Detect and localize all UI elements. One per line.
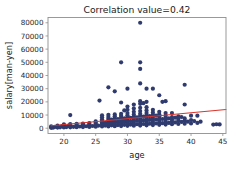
data-point bbox=[97, 98, 101, 102]
y-tick-label-5: 50000 bbox=[21, 58, 44, 67]
data-point bbox=[68, 113, 72, 117]
data-point bbox=[164, 99, 168, 103]
y-axis-label: salary[man-yen] bbox=[4, 42, 14, 109]
x-tick-label-3: 35 bbox=[155, 137, 164, 146]
x-tick-label-5: 45 bbox=[218, 137, 227, 146]
x-tick-label-2: 30 bbox=[123, 137, 133, 146]
data-point bbox=[218, 122, 222, 126]
y-tick-label-3: 30000 bbox=[21, 84, 44, 93]
y-tick-label-0: 0 bbox=[39, 124, 44, 133]
y-tick-label-8: 80000 bbox=[21, 18, 44, 27]
chart-title: Correlation value=0.42 bbox=[84, 4, 191, 15]
data-point bbox=[138, 67, 142, 71]
data-point bbox=[157, 110, 161, 114]
y-tick-label-6: 60000 bbox=[21, 45, 44, 54]
data-point bbox=[144, 87, 148, 91]
data-point bbox=[189, 114, 193, 118]
data-point bbox=[100, 113, 104, 117]
y-tick-label-2: 20000 bbox=[21, 97, 44, 106]
data-point bbox=[119, 60, 123, 64]
y-tick-label-1: 10000 bbox=[21, 111, 44, 120]
y-tick-label-4: 40000 bbox=[21, 71, 44, 80]
matplotlib-figure: Correlation value=0.42 01000020000300004… bbox=[0, 0, 242, 169]
data-point bbox=[138, 21, 142, 25]
data-point bbox=[125, 87, 129, 91]
x-tick-label-1: 25 bbox=[91, 137, 100, 146]
data-point bbox=[198, 120, 202, 124]
data-point bbox=[183, 116, 187, 120]
data-point bbox=[96, 124, 100, 128]
data-point bbox=[151, 87, 155, 91]
data-point bbox=[119, 112, 123, 116]
data-point bbox=[183, 83, 187, 87]
data-point bbox=[138, 106, 142, 110]
y-tick-label-7: 70000 bbox=[21, 32, 44, 41]
scatter-chart: Correlation value=0.42 01000020000300004… bbox=[0, 0, 242, 169]
data-point bbox=[157, 93, 161, 97]
data-point bbox=[144, 105, 148, 109]
data-point bbox=[106, 85, 110, 89]
data-point bbox=[183, 102, 187, 106]
data-point bbox=[132, 102, 136, 106]
data-point bbox=[138, 81, 142, 85]
data-point bbox=[125, 104, 129, 108]
data-point bbox=[138, 60, 142, 64]
x-axis-label: age bbox=[129, 150, 144, 160]
x-tick-label-4: 40 bbox=[186, 137, 196, 146]
data-point bbox=[113, 112, 117, 116]
data-point bbox=[87, 121, 91, 125]
data-point bbox=[144, 100, 148, 104]
data-point bbox=[132, 106, 136, 110]
data-point bbox=[113, 89, 117, 93]
data-point bbox=[195, 114, 199, 118]
data-point bbox=[106, 113, 110, 117]
x-tick-label-0: 20 bbox=[59, 137, 69, 146]
data-point bbox=[151, 108, 155, 112]
data-point bbox=[119, 100, 123, 104]
